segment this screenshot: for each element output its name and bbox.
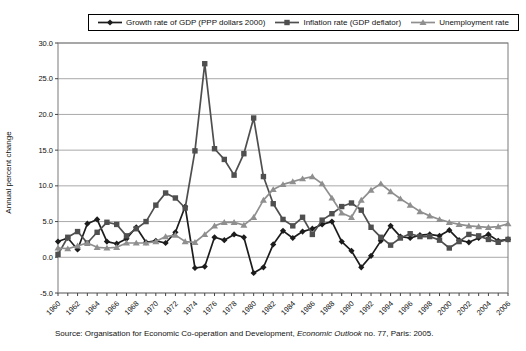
x-tick-label: 1992 [357,299,375,317]
diamond-marker-icon [466,239,472,245]
diamond-marker-icon [211,234,217,240]
legend-label-inflation: Inflation rate (GDP deflator) [303,19,401,27]
square-marker-icon [114,222,119,227]
legend-label-gdp-growth: Growth rate of GDP (PPP dollars 2000) [126,19,265,27]
x-tick-label: 1978 [220,299,238,317]
y-tick-label: 0.0 [43,253,53,262]
square-marker-icon [65,235,70,240]
square-marker-icon [75,229,80,234]
square-marker-icon [368,225,373,230]
x-tick-label: 1986 [299,299,317,317]
square-marker-icon [388,242,393,247]
inflation-square-marker-icon [275,18,299,27]
square-marker-icon [290,223,295,228]
square-marker-icon [300,215,305,220]
square-marker-icon [456,239,461,244]
square-marker-icon [124,233,129,238]
y-tick-label: 20.0 [38,110,53,119]
legend-item-inflation: Inflation rate (GDP deflator) [275,18,401,27]
square-marker-icon [94,230,99,235]
y-tick-label: 30.0 [38,39,53,48]
square-marker-icon [280,217,285,222]
square-marker-icon [407,231,412,236]
x-tick-label: 1962 [64,299,82,317]
legend-label-unemployment: Unemployment rate [439,19,509,27]
diamond-marker-icon [104,238,110,244]
square-marker-icon [319,217,324,222]
square-marker-icon [261,174,266,179]
square-marker-icon [222,157,227,162]
square-marker-icon [173,195,178,200]
square-marker-icon [231,172,236,177]
y-tick-label: 15.0 [38,146,53,155]
square-marker-icon [192,148,197,153]
square-marker-icon [202,61,207,66]
x-tick-label: 1974 [181,299,199,317]
legend-item-gdp-growth: Growth rate of GDP (PPP dollars 2000) [98,18,265,27]
square-marker-icon [271,201,276,206]
square-marker-icon [143,219,148,224]
series-diamond [55,203,511,276]
chart-plot: 30.025.020.015.010.05.00.0-5.01960196219… [0,0,526,351]
square-marker-icon [466,232,471,237]
x-tick-label: 1970 [142,299,160,317]
diamond-marker-icon [107,19,113,25]
x-tick-label: 1976 [201,299,219,317]
legend: Growth rate of GDP (PPP dollars 2000) In… [88,14,519,31]
source-text-suffix: no. 77, Paris: 2005. [362,329,434,338]
x-tick-label: 2000 [436,299,454,317]
chart-figure: 30.025.020.015.010.05.00.0-5.01960196219… [0,0,526,351]
unemployment-triangle-marker-icon [411,18,435,27]
square-marker-icon [182,205,187,210]
square-marker-icon [505,237,510,242]
square-marker-icon [285,20,290,25]
y-tick-label: -5.0 [40,289,53,298]
x-tick-label: 2004 [475,299,493,317]
diamond-marker-icon [55,238,61,244]
triangle-marker-icon [377,180,384,186]
series-square [55,61,510,257]
square-marker-icon [398,235,403,240]
square-marker-icon [496,240,501,245]
diamond-marker-icon [192,265,198,271]
square-marker-icon [417,234,422,239]
square-marker-icon [310,232,315,237]
square-marker-icon [212,146,217,151]
diamond-marker-icon [329,218,335,224]
square-marker-icon [476,233,481,238]
diamond-marker-icon [241,234,247,240]
x-tick-label: 1966 [103,299,121,317]
square-marker-icon [447,245,452,250]
gdp-diamond-marker-icon [98,18,122,27]
x-tick-label: 1968 [123,299,141,317]
square-marker-icon [349,200,354,205]
series-line [58,64,508,255]
x-tick-label: 1984 [279,299,297,317]
plot-border [58,43,508,293]
square-marker-icon [104,220,109,225]
x-tick-label: 1998 [416,299,434,317]
x-tick-label: 1996 [396,299,414,317]
x-tick-label: 1964 [83,299,101,317]
x-tick-label: 1982 [259,299,277,317]
x-tick-label: 1994 [377,299,395,317]
square-marker-icon [427,234,432,239]
x-tick-label: 1960 [44,299,62,317]
square-marker-icon [437,237,442,242]
square-marker-icon [163,190,168,195]
square-marker-icon [339,204,344,209]
square-marker-icon [251,115,256,120]
x-tick-label: 1988 [318,299,336,317]
x-tick-label: 1980 [240,299,258,317]
x-tick-label: 1972 [162,299,180,317]
square-marker-icon [241,151,246,156]
diamond-marker-icon [202,263,208,269]
triangle-marker-icon [250,214,257,220]
triangle-marker-icon [309,173,316,179]
square-marker-icon [153,202,158,207]
y-tick-label: 10.0 [38,181,53,190]
y-tick-label: 25.0 [38,74,53,83]
source-text-prefix: Source: Organisation for Economic Co-ope… [55,329,297,338]
legend-item-unemployment: Unemployment rate [411,18,509,27]
y-axis-title: Annual percent change [4,113,15,233]
